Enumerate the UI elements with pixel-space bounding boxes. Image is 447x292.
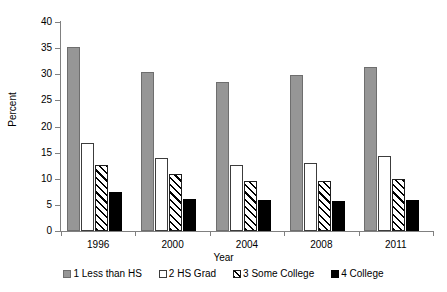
y-axis-tick-label: 0 <box>22 226 52 236</box>
bar <box>392 179 405 231</box>
y-axis-tick-label: 40 <box>22 17 52 27</box>
plot-area <box>61 22 433 231</box>
legend-swatch-icon <box>233 270 241 278</box>
x-axis-tick-label: 2000 <box>135 239 209 250</box>
x-axis-tick-label: 2004 <box>210 239 284 250</box>
x-axis-tick <box>210 231 211 236</box>
y-axis-tick-label: 20 <box>22 122 52 132</box>
chart-legend: 1 Less than HS2 HS Grad3 Some College4 C… <box>0 268 447 279</box>
bar <box>364 67 377 231</box>
bar <box>216 82 229 231</box>
bar <box>304 163 317 231</box>
bar <box>141 72 154 231</box>
y-axis-title: Percent <box>7 65 18 155</box>
y-axis-tick-label: 35 <box>22 43 52 53</box>
y-axis-tick-label: 30 <box>22 69 52 79</box>
x-axis-tick <box>433 231 434 236</box>
bar <box>109 192 122 231</box>
x-axis-tick <box>284 231 285 236</box>
bar <box>318 181 331 231</box>
legend-item-label: 1 Less than HS <box>73 268 141 279</box>
bar <box>332 201 345 231</box>
y-axis-tick-label: 5 <box>22 200 52 210</box>
x-axis-tick-label: 2008 <box>284 239 358 250</box>
legend-item: 1 Less than HS <box>63 268 141 279</box>
legend-item: 3 Some College <box>233 268 314 279</box>
bar <box>244 181 257 231</box>
x-axis-tick-label: 1996 <box>61 239 135 250</box>
bar <box>258 200 271 231</box>
x-axis-tick <box>135 231 136 236</box>
bar <box>81 143 94 231</box>
legend-swatch-icon <box>331 270 339 278</box>
legend-item: 4 College <box>331 268 383 279</box>
y-axis-tick-label: 10 <box>22 174 52 184</box>
legend-item: 2 HS Grad <box>159 268 216 279</box>
x-axis-tick <box>61 231 62 236</box>
y-axis-tick-label: 25 <box>22 95 52 105</box>
x-axis-title: Year <box>0 252 447 263</box>
x-axis-tick-label: 2011 <box>359 239 433 250</box>
bar <box>230 165 243 231</box>
bar <box>406 200 419 231</box>
legend-swatch-icon <box>63 270 71 278</box>
legend-item-label: 4 College <box>341 268 383 279</box>
bar <box>378 156 391 231</box>
bar-chart: 0510152025303540 19962000200420082011 Pe… <box>0 0 447 292</box>
bar <box>155 158 168 231</box>
legend-item-label: 3 Some College <box>243 268 314 279</box>
y-axis-tick-label: 15 <box>22 148 52 158</box>
legend-swatch-icon <box>159 270 167 278</box>
bar <box>95 165 108 231</box>
bar <box>183 199 196 231</box>
legend-item-label: 2 HS Grad <box>169 268 216 279</box>
bar <box>67 47 80 231</box>
x-axis-line <box>60 231 434 232</box>
bar <box>169 174 182 231</box>
bar <box>290 75 303 231</box>
x-axis-tick <box>359 231 360 236</box>
